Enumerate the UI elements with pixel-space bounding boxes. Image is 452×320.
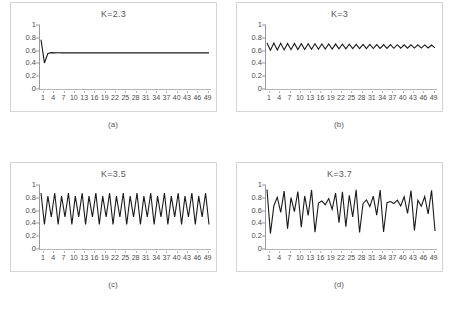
x-tick-mark	[320, 251, 321, 253]
chart-frame-c: K=3.5 10.80.60.40.20 1471013161922252831…	[10, 162, 217, 272]
x-axis-d	[265, 249, 437, 250]
y-tick-mark	[262, 249, 266, 250]
x-tick-label: 22	[337, 254, 345, 261]
x-tick-mark	[403, 251, 404, 253]
x-tick-label: 43	[409, 254, 417, 261]
x-tick-label: 7	[62, 94, 66, 101]
x-tick-label: 28	[358, 254, 366, 261]
y-tick-label: 0.2	[252, 232, 262, 240]
x-tick-label: 4	[51, 254, 55, 261]
x-axis-c	[39, 249, 211, 250]
y-axis-c	[39, 185, 40, 249]
x-tick-mark	[423, 91, 424, 93]
x-tick-labels-a: 1471013161922252831343740434649	[39, 91, 211, 103]
y-tick-mark	[36, 89, 40, 90]
panel-b: K=3 10.80.60.40.20 147101316192225283134…	[226, 0, 452, 160]
data-polyline	[41, 193, 209, 224]
x-tick-label: 1	[41, 254, 45, 261]
x-tick-label: 25	[347, 254, 355, 261]
x-tick-label: 16	[91, 254, 99, 261]
series-line-a	[41, 25, 209, 89]
x-tick-label: 28	[132, 254, 140, 261]
x-tick-labels-d: 1471013161922252831343740434649	[265, 251, 437, 263]
y-tick-mark	[36, 236, 40, 237]
y-tick-label: 0.6	[252, 47, 262, 55]
x-tick-mark	[362, 91, 363, 93]
y-tick-mark	[36, 76, 40, 77]
panel-d: K=3.7 10.80.60.40.20 1471013161922252831…	[226, 160, 452, 320]
x-tick-mark	[177, 91, 178, 93]
y-axis-a	[39, 25, 40, 89]
x-tick-label: 7	[288, 94, 292, 101]
x-tick-label: 16	[91, 94, 99, 101]
x-tick-label: 46	[419, 94, 427, 101]
x-tick-label: 31	[142, 254, 150, 261]
x-tick-label: 40	[399, 254, 407, 261]
x-tick-mark	[403, 91, 404, 93]
y-tick-label: 0.2	[252, 72, 262, 80]
x-tick-label: 1	[41, 94, 45, 101]
y-tick-mark	[262, 37, 266, 38]
x-tick-mark	[136, 251, 137, 253]
x-tick-label: 34	[152, 94, 160, 101]
x-tick-mark	[94, 251, 95, 253]
x-tick-mark	[351, 91, 352, 93]
x-tick-mark	[156, 251, 157, 253]
x-tick-mark	[187, 251, 188, 253]
x-tick-mark	[156, 91, 157, 93]
x-tick-label: 46	[419, 254, 427, 261]
x-tick-label: 22	[111, 94, 119, 101]
x-tick-label: 4	[277, 254, 281, 261]
x-tick-mark	[105, 91, 106, 93]
x-tick-mark	[136, 91, 137, 93]
x-tick-label: 19	[101, 94, 109, 101]
x-tick-mark	[64, 251, 65, 253]
series-line-c	[41, 185, 209, 249]
y-tick-mark	[262, 185, 266, 186]
y-tick-mark	[262, 236, 266, 237]
x-tick-mark	[177, 251, 178, 253]
y-tick-label: 0.6	[26, 47, 36, 55]
x-tick-labels-b: 1471013161922252831343740434649	[265, 91, 437, 103]
data-polyline	[267, 189, 435, 233]
y-tick-mark	[262, 89, 266, 90]
y-axis-d	[265, 185, 266, 249]
x-tick-mark	[341, 91, 342, 93]
chart-title-b: K=3	[237, 9, 442, 19]
x-tick-label: 1	[267, 254, 271, 261]
x-tick-label: 37	[163, 254, 171, 261]
y-tick-label: 0.8	[26, 34, 36, 42]
x-tick-label: 13	[306, 254, 314, 261]
x-tick-mark	[146, 91, 147, 93]
y-tick-mark	[36, 50, 40, 51]
x-tick-label: 25	[347, 94, 355, 101]
x-tick-mark	[84, 251, 85, 253]
x-tick-label: 4	[51, 94, 55, 101]
x-tick-mark	[279, 251, 280, 253]
series-line-d	[267, 185, 435, 249]
x-tick-label: 37	[163, 94, 171, 101]
x-tick-label: 22	[337, 94, 345, 101]
series-line-b	[267, 25, 435, 89]
x-tick-mark	[434, 251, 435, 253]
x-tick-mark	[423, 251, 424, 253]
x-tick-label: 37	[389, 254, 397, 261]
x-tick-mark	[43, 251, 44, 253]
x-tick-labels-c: 1471013161922252831343740434649	[39, 251, 211, 263]
plot-area-a: 10.80.60.40.20 1471013161922252831343740…	[41, 25, 209, 89]
x-tick-mark	[392, 251, 393, 253]
x-tick-label: 43	[183, 94, 191, 101]
x-tick-label: 40	[173, 94, 181, 101]
x-tick-label: 37	[389, 94, 397, 101]
x-tick-mark	[197, 91, 198, 93]
y-axis-b	[265, 25, 266, 89]
x-tick-label: 13	[306, 94, 314, 101]
y-tick-label: 0.2	[26, 72, 36, 80]
x-tick-mark	[382, 91, 383, 93]
x-tick-label: 34	[378, 254, 386, 261]
x-tick-mark	[362, 251, 363, 253]
x-tick-label: 31	[368, 94, 376, 101]
y-tick-mark	[262, 223, 266, 224]
caption-c: (c)	[0, 280, 226, 289]
x-tick-label: 25	[121, 254, 129, 261]
